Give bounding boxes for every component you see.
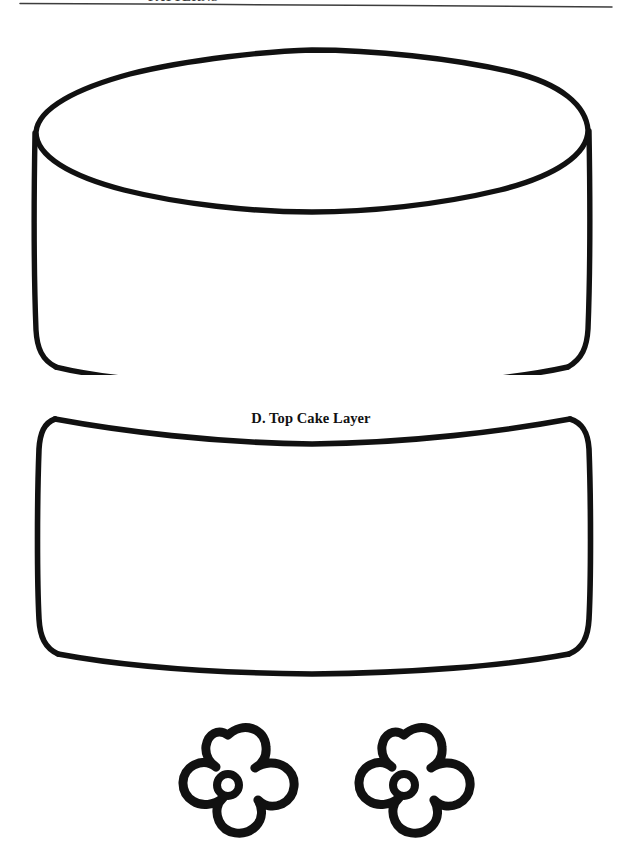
- flowerette-right: [359, 728, 470, 834]
- flowerette-left: [183, 728, 294, 834]
- page-header: PATTERNS: [0, 0, 622, 14]
- bottom-cake-layer-drawing: [0, 405, 622, 680]
- top-cake-layer-drawing: [0, 30, 622, 375]
- figure-bottom-cake-layer: E. Bottom Cake Layer: [0, 405, 622, 680]
- flowerette-right-center-hole: [393, 774, 415, 796]
- figure-flowerettes: F. Flowerettes: [0, 722, 622, 847]
- pattern-sheet-page: PATTERNS D. Top Cake Layer: [0, 0, 622, 863]
- figure-top-cake-layer: D. Top Cake Layer: [0, 30, 622, 375]
- header-divider-rule: [0, 0, 622, 14]
- flowerettes-drawing: [0, 722, 622, 847]
- flowerette-left-center-hole: [217, 774, 239, 796]
